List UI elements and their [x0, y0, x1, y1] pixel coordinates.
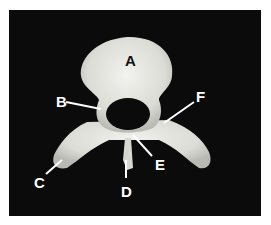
- leader-lines: [9, 10, 261, 216]
- leader-line-e: [133, 135, 152, 156]
- label-d: D: [121, 184, 132, 199]
- label-b: B: [56, 94, 67, 109]
- leader-line-f: [164, 102, 194, 123]
- vertebra-photo: A B C D E F: [9, 10, 261, 216]
- label-c: C: [34, 175, 45, 190]
- leader-line-c: [46, 160, 62, 174]
- leader-line-b: [66, 102, 101, 109]
- label-f: F: [196, 89, 205, 104]
- label-a: A: [125, 53, 136, 68]
- label-e: E: [155, 157, 165, 172]
